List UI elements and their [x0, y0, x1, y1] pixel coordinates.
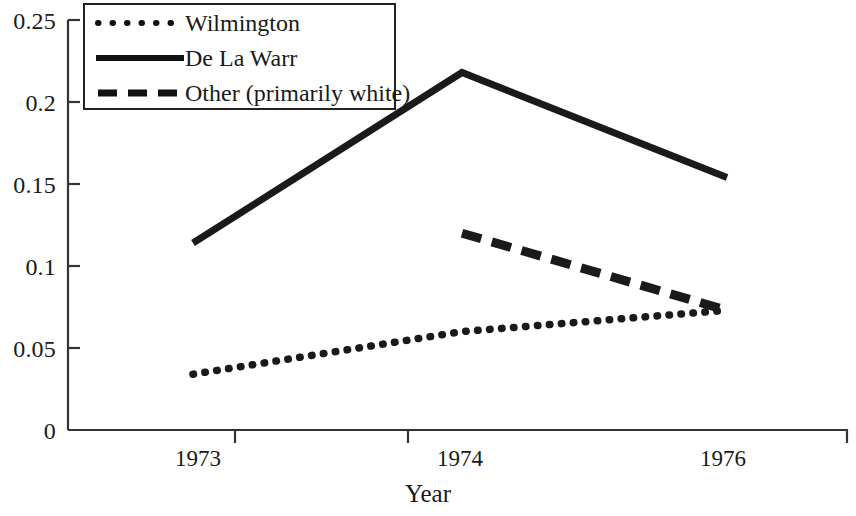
legend-entry-de-la-warr: De La Warr — [85, 40, 394, 75]
legend-label-de-la-warr: De La Warr — [185, 46, 297, 70]
y-tick-label-0.05: 0.05 — [0, 337, 56, 361]
legend-label-wilmington: Wilmington — [185, 11, 300, 35]
solid-line-swatch-icon — [95, 48, 185, 68]
dotted-line-swatch-icon — [95, 13, 185, 33]
line-chart-figure: 0.25 0.2 0.15 0.1 0.05 0 1973 1974 1976 … — [0, 0, 856, 516]
y-tick-label-0.2: 0.2 — [0, 91, 56, 115]
legend-label-other: Other (primarily white) — [185, 81, 410, 105]
y-tick-label-0.1: 0.1 — [0, 255, 56, 279]
x-tick-label-1973: 1973 — [138, 447, 258, 470]
x-axis-title: Year — [0, 481, 856, 507]
legend-entry-other: Other (primarily white) — [85, 75, 394, 110]
y-tick-label-0.15: 0.15 — [0, 173, 56, 197]
data-series-layer — [193, 73, 727, 375]
dashed-line-swatch-icon — [95, 83, 185, 103]
legend-entry-wilmington: Wilmington — [85, 5, 394, 40]
x-tick-label-1974: 1974 — [400, 447, 520, 470]
series-line-wilmington — [193, 310, 727, 374]
y-tick-label-0: 0 — [0, 419, 56, 443]
series-line-other-primarily-white — [462, 233, 727, 310]
chart-legend: Wilmington De La Warr Other (primarily w… — [83, 3, 396, 110]
y-tick-label-0.25: 0.25 — [0, 9, 56, 33]
x-tick-label-1976: 1976 — [663, 447, 783, 470]
